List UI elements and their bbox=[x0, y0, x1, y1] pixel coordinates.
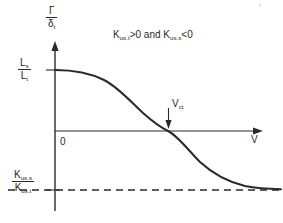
asymptote-numerator: Kus.s bbox=[12, 170, 34, 181]
y-axis-label: Γ δt bbox=[46, 6, 57, 29]
asymptote-denominator-sub: us.t bbox=[21, 187, 31, 194]
y-axis bbox=[51, 41, 58, 211]
upper-level-numerator-base: L bbox=[20, 57, 26, 68]
y-axis-label-denominator-base: δ bbox=[48, 18, 54, 29]
upper-level-numerator-sub: s bbox=[26, 62, 29, 69]
upper-level-denominator-sub: t bbox=[26, 75, 28, 82]
vct-label-sub: ct bbox=[179, 103, 184, 110]
asymptote-numerator-sub: us.s bbox=[21, 174, 32, 181]
condition-val1: 0 bbox=[136, 29, 142, 40]
figure-container: Γ δt Ls Lt Kus.s Kus.t Kus.t>0 and Kus.s… bbox=[0, 0, 283, 223]
gamma-curve bbox=[55, 70, 281, 189]
vct-label-base: V bbox=[172, 98, 179, 109]
upper-level-label: Ls Lt bbox=[18, 58, 31, 81]
vct-label: Vct bbox=[172, 99, 184, 109]
condition-k2-base: K bbox=[163, 29, 170, 40]
x-axis bbox=[55, 127, 263, 134]
condition-k1-sub: us.t bbox=[120, 34, 130, 41]
asymptote-level-label: Kus.s Kus.t bbox=[12, 170, 34, 193]
condition-val2: 0 bbox=[187, 29, 193, 40]
y-axis-label-denominator: δt bbox=[46, 18, 57, 29]
asymptote-denominator: Kus.t bbox=[12, 182, 34, 193]
asymptote-numerator-base: K bbox=[14, 169, 21, 180]
vct-arrowhead bbox=[165, 120, 171, 129]
corner-scan-mark: ı bbox=[259, 1, 261, 8]
y-axis-arrowhead bbox=[51, 41, 58, 51]
y-axis-label-denominator-sub: t bbox=[54, 23, 56, 30]
condition-conjunction: and bbox=[144, 29, 161, 40]
condition-annotation: Kus.t>0 and Kus.s<0 bbox=[113, 30, 193, 40]
upper-level-denominator: Lt bbox=[18, 70, 31, 81]
condition-k1-base: K bbox=[113, 29, 120, 40]
condition-k2-sub: us.s bbox=[170, 34, 181, 41]
x-axis-label: V bbox=[251, 135, 258, 145]
vct-pointer-arrow bbox=[165, 108, 171, 129]
upper-level-numerator: Ls bbox=[18, 58, 31, 69]
y-axis-label-numerator: Γ bbox=[46, 6, 57, 17]
origin-label: 0 bbox=[60, 137, 66, 147]
